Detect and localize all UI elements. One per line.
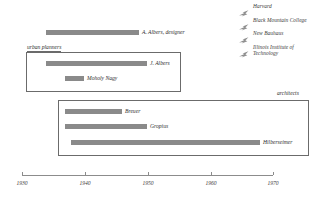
group-title-architects: architects <box>277 90 299 96</box>
axis-line <box>22 175 273 176</box>
axis-tick-label: 1970 <box>267 180 278 186</box>
axis-tick-label: 1960 <box>205 180 216 186</box>
bar-label-a-albers: A. Albers, designer <box>142 30 185 36</box>
bar-label-moholy-nagy: Moholy Nagy <box>87 76 117 82</box>
bar-hilberseimer <box>71 140 260 145</box>
axis-tick <box>85 172 86 175</box>
axis-tick <box>273 172 274 175</box>
bar-label-breuer: Breuer <box>125 109 140 115</box>
bar-j-albers <box>46 61 147 66</box>
bar-label-j-albers: J. Albers <box>150 61 170 67</box>
bar-label-gropius: Gropius <box>150 124 168 130</box>
bar-gropius <box>65 124 147 129</box>
bar-breuer <box>65 109 122 114</box>
axis-tick <box>22 172 23 175</box>
axis-tick-label: 1930 <box>16 180 27 186</box>
bar-moholy-nagy <box>65 76 84 81</box>
axis-tick <box>148 172 149 175</box>
axis-tick-label: 1950 <box>142 180 153 186</box>
group-title-urban-planners: urban planners <box>27 44 61 52</box>
plot-area: A. Albers, designer urban planners J. Al… <box>0 0 318 170</box>
timeline-chart: Harvard Black Mountain College New Bauha… <box>0 0 318 201</box>
bar-a-albers <box>46 30 139 35</box>
axis-tick-label: 1940 <box>79 180 90 186</box>
bar-label-hilberseimer: Hilberseimer <box>263 140 293 146</box>
group-box-urban-planners <box>26 52 181 92</box>
axis-tick <box>211 172 212 175</box>
